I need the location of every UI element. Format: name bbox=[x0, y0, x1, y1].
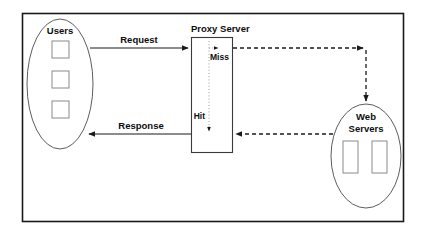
web-servers-label-line1: Web bbox=[356, 111, 376, 122]
users-label: Users bbox=[47, 25, 73, 36]
user-unit bbox=[52, 101, 69, 118]
web-server-unit bbox=[372, 141, 387, 173]
hit-label: Hit bbox=[194, 111, 206, 121]
user-unit bbox=[52, 71, 69, 88]
proxy-server-label: Proxy Server bbox=[191, 23, 250, 34]
web-server-unit bbox=[343, 141, 358, 173]
proxy-cache-diagram: Users Proxy Server Miss Hit Web Servers … bbox=[0, 0, 426, 238]
response-label: Response bbox=[118, 120, 163, 131]
request-label: Request bbox=[120, 34, 158, 45]
user-unit bbox=[52, 41, 69, 58]
web-servers-label-line2: Servers bbox=[349, 123, 384, 134]
miss-label: Miss bbox=[210, 52, 229, 62]
diagram-root: Users Proxy Server Miss Hit Web Servers … bbox=[0, 0, 426, 238]
